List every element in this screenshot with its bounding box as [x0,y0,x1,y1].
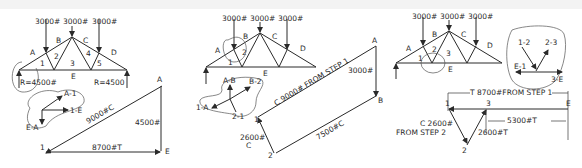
force-label: C [246,141,251,150]
point-label: 1 [445,99,450,108]
point-label: 1 [40,143,45,152]
region-label: C [83,36,88,45]
panel-step2: 3000# 3000# 3000# A B C D E 1 2 A-B B-2 … [196,14,383,160]
point-label: 3 [486,99,491,108]
region-label: 3 [446,49,451,58]
vector-label: A-1 [64,89,77,98]
truss-analysis-diagram: 3000# 3000# 3000# A B C D E 1 2 3 4 5 R=… [0,0,582,168]
force-label: 8700#T [92,143,122,152]
load-label: 3000# [92,17,117,26]
load-label: 3000# [35,17,60,26]
vector-label: 1-E [70,106,82,115]
region-label: D [111,48,117,57]
load-label: 3000# [278,14,303,23]
load-label: 3000# [412,12,437,21]
point-label: 1 [254,115,259,124]
region-label: 2 [54,52,59,61]
region-label: A [406,44,412,53]
point-label: A [372,36,378,45]
vector-label: 3-E [551,75,563,84]
point-label: B [378,96,383,105]
point-label: A [157,75,163,84]
region-label: B [243,32,248,41]
region-label: E [71,72,76,81]
region-label: D [300,44,306,53]
region-label: B [432,30,437,39]
region-label: 1 [40,59,45,68]
panel-step3: 3000# 3000# 3000# A B C D E 1 2 3 1-2 2-… [396,12,571,155]
point-label: E [566,99,571,108]
point-label: E [165,147,170,156]
vector-label: 1-A [196,103,209,112]
vector-label: A-B [223,76,236,85]
vector-label: 2-1 [232,112,244,121]
force-label: C 2600# [420,119,453,128]
region-label: E [448,65,453,74]
region-label: 3 [70,59,75,68]
force-label: 4500# [135,118,160,127]
dimension-label: 5300#T [507,116,537,125]
region-label: D [487,41,493,50]
force-label: 2600#T [478,128,508,137]
vector-label: B-2 [249,77,262,86]
region-label: 2 [432,45,437,54]
force-label: 3000# [348,66,373,75]
force-label: FROM STEP 2 [396,128,446,137]
point-label: 2 [268,151,273,160]
region-label: C [272,32,277,41]
load-label: 3000# [250,14,275,23]
vector-label: 1-2 [518,38,530,47]
region-label: C [461,30,466,39]
region-label: 1 [228,58,233,67]
load-label: 3000# [222,14,247,23]
point-label: 2 [462,146,467,155]
reaction-right: R=4500 [94,78,125,87]
vector-label: E-1 [514,62,526,71]
dimension-label: T 8700#FROM STEP 1 [469,88,553,97]
load-label: 3000# [63,17,88,26]
load-label: 3000# [440,12,465,21]
region-label: E [263,69,268,78]
region-label: A [215,46,221,55]
region-label: 5 [97,59,102,68]
force-label: 2600# [240,133,265,142]
panel-step1: 3000# 3000# 3000# A B C D E 1 2 3 4 5 R=… [12,17,170,156]
load-label: 3000# [468,12,493,21]
vector-label: E-A [26,123,39,132]
region-label: B [56,36,61,45]
region-label: 4 [86,49,91,58]
region-label: A [30,48,36,57]
vector-label: 2-3 [545,38,557,47]
